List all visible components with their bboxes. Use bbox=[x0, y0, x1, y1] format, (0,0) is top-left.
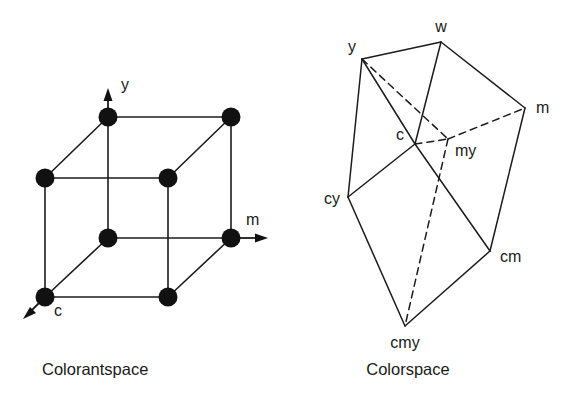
edge-y-w bbox=[362, 42, 441, 59]
lattice-node bbox=[159, 169, 178, 188]
figure-root: y m c Colorantspace bbox=[0, 0, 576, 400]
edge-c-my bbox=[415, 139, 448, 144]
axis-label-y: y bbox=[121, 76, 129, 93]
lattice-node bbox=[222, 108, 241, 127]
cube-edge-diag-top-right bbox=[168, 117, 231, 178]
lattice-node bbox=[99, 108, 118, 127]
vertex-label-c: c bbox=[396, 126, 404, 143]
axis-y-arrowhead-icon bbox=[104, 88, 113, 101]
edge-y-cy bbox=[348, 59, 362, 197]
vertex-label-my: my bbox=[455, 142, 476, 159]
cube-edge-diag-top-left bbox=[45, 117, 108, 178]
cube-edge-diag-bottom-right bbox=[168, 238, 231, 297]
edge-my-cmy bbox=[405, 139, 448, 326]
caption-colorantspace: Colorantspace bbox=[42, 360, 148, 378]
edge-m-cm bbox=[490, 108, 525, 251]
axis-m-arrowhead-icon bbox=[255, 234, 268, 243]
lattice-node bbox=[36, 288, 55, 307]
lattice-node bbox=[36, 169, 55, 188]
vertex-label-y: y bbox=[348, 38, 356, 55]
lattice-node bbox=[99, 229, 118, 248]
axis-label-c: c bbox=[54, 302, 62, 319]
vertex-label-cmy: cmy bbox=[390, 334, 419, 351]
lattice-node bbox=[159, 288, 178, 307]
vertex-label-w: w bbox=[434, 18, 447, 35]
edge-c-cy bbox=[348, 144, 415, 197]
caption-colorspace: Colorspace bbox=[366, 360, 449, 378]
colorspace-panel: w y m c my cy cm cmy Colorspace bbox=[324, 18, 549, 378]
edge-w-m bbox=[441, 42, 525, 108]
cube-edge-diag-bottom-left bbox=[45, 238, 108, 297]
edge-my-m bbox=[448, 108, 525, 139]
colorspace-visible-edges bbox=[348, 42, 525, 326]
edge-cy-cmy bbox=[348, 197, 405, 326]
diagram-canvas: y m c Colorantspace bbox=[0, 0, 576, 400]
edge-cm-cmy bbox=[405, 251, 490, 326]
lattice-node bbox=[222, 229, 241, 248]
cube-edges bbox=[45, 117, 231, 297]
vertex-label-cm: cm bbox=[500, 248, 521, 265]
axis-label-m: m bbox=[246, 211, 259, 228]
vertex-label-m: m bbox=[536, 99, 549, 116]
vertex-label-cy: cy bbox=[324, 190, 340, 207]
colorantspace-panel: y m c Colorantspace bbox=[23, 76, 268, 378]
